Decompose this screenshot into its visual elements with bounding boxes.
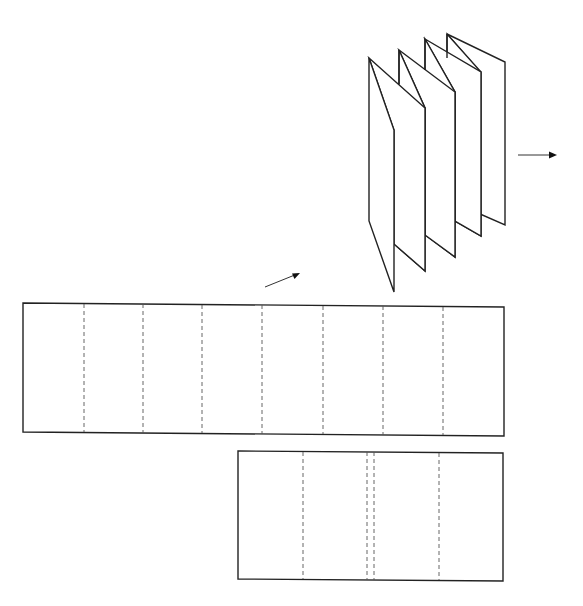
flat-sheet-long xyxy=(23,303,504,436)
sheet-outline xyxy=(238,451,503,581)
arrow-to-folded xyxy=(265,273,300,287)
flat-sheet-short xyxy=(238,451,503,581)
fold-diagram-canvas xyxy=(0,0,583,606)
sheet-outline xyxy=(23,303,504,436)
folded-sheet xyxy=(369,34,505,292)
arrow-right xyxy=(518,152,557,159)
